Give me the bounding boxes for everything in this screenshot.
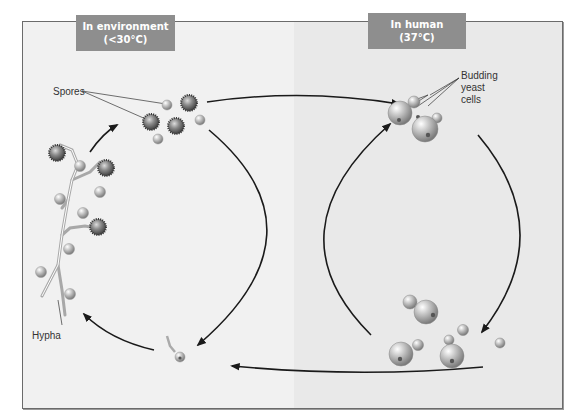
arrow-spores-to-yeast bbox=[207, 95, 399, 104]
stage-environment-temp: (<30°C) bbox=[76, 33, 175, 46]
arrow-up-right-panel bbox=[324, 124, 390, 335]
stage-environment-title: In environment bbox=[76, 20, 175, 33]
spores-cluster bbox=[143, 95, 205, 144]
stage-label-human: In human (37°C) bbox=[368, 13, 466, 49]
budding-yeast-bottom bbox=[389, 295, 505, 368]
stage-label-environment: In environment (<30°C) bbox=[76, 15, 175, 51]
stage-human-temp: (37°C) bbox=[368, 31, 466, 44]
budding-label-line2: yeast bbox=[461, 82, 501, 94]
budding-label-line1: Budding bbox=[461, 70, 501, 82]
germinating-spore bbox=[167, 336, 185, 362]
stage-human-title: In human bbox=[368, 18, 466, 31]
hypha-label: Hypha bbox=[32, 330, 61, 342]
budding-yeast-top bbox=[388, 96, 442, 142]
arrow-hypha-to-spores bbox=[90, 125, 117, 152]
arrow-yeast-to-germling bbox=[232, 366, 483, 372]
budding-yeast-label: Budding yeast cells bbox=[461, 70, 501, 106]
arrows bbox=[84, 95, 520, 372]
budding-label-line3: cells bbox=[461, 94, 501, 106]
arrow-spores-down bbox=[198, 130, 267, 345]
arrow-germling-to-hypha bbox=[84, 314, 154, 350]
life-cycle-diagram bbox=[0, 0, 583, 420]
spores-label: Spores bbox=[53, 86, 85, 98]
arrow-yeast-to-yeast-right bbox=[478, 135, 520, 332]
